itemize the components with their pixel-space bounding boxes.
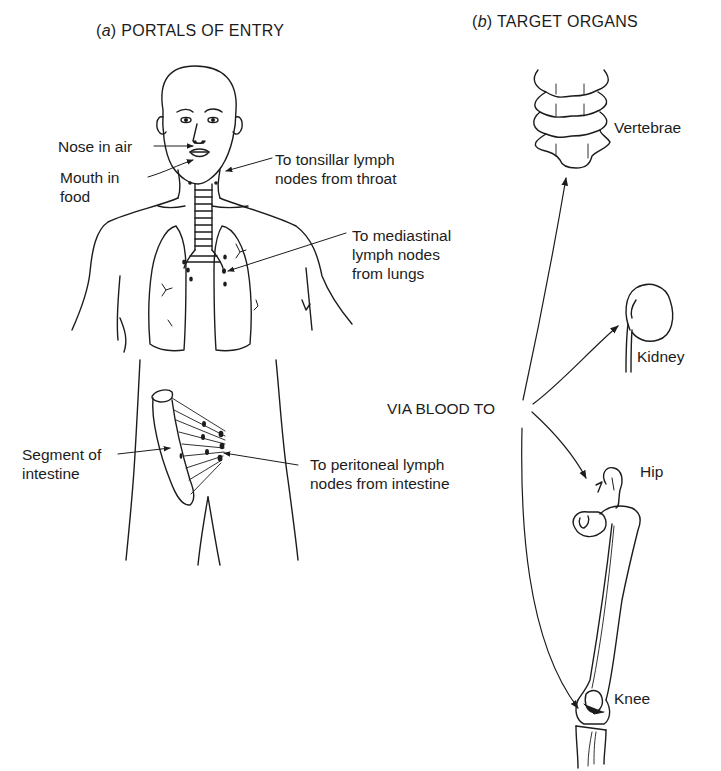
waist-right: [276, 360, 298, 560]
ear-left: [157, 117, 166, 134]
blood-route-arrows: [522, 178, 618, 708]
torso-left: [72, 198, 178, 330]
label-mouth-in-food: Mouth in food: [60, 168, 119, 206]
vertebrae-drawing: [534, 70, 610, 168]
label-segment-of-intestine: Segment of intestine: [22, 445, 101, 483]
intestine-segment: [152, 390, 225, 505]
label-knee: Knee: [614, 689, 650, 708]
head-outline: [162, 66, 236, 184]
torso-right: [220, 198, 352, 324]
waist-left: [126, 360, 140, 560]
hip-femur-drawing: [573, 468, 640, 768]
leader-lines: [118, 146, 346, 465]
anatomy-illustration: [0, 0, 721, 771]
label-kidney: Kidney: [637, 347, 684, 366]
label-mediastinal-lymph-nodes: To mediastinal lymph nodes from lungs: [352, 226, 451, 283]
arrow-to-kidney: [533, 326, 618, 404]
arrow-to-hip: [532, 412, 586, 478]
label-nose-in-air: Nose in air: [58, 137, 132, 156]
lungs: [149, 226, 258, 351]
lung-left: [149, 226, 186, 351]
trachea: [184, 184, 223, 268]
arrow-to-vertebrae: [523, 178, 566, 400]
leader-intestine: [118, 448, 170, 454]
leader-peritoneal: [224, 453, 298, 465]
lung-right: [214, 226, 251, 351]
label-vertebrae: Vertebrae: [614, 118, 681, 137]
label-via-blood-to: VIA BLOOD TO: [387, 399, 495, 418]
label-tonsillar-lymph-nodes: To tonsillar lymph nodes from throat: [275, 150, 396, 188]
leader-tonsillar: [226, 158, 272, 171]
mouth: [190, 149, 209, 157]
leader-mediastinal: [228, 233, 346, 271]
label-hip: Hip: [640, 462, 663, 481]
label-peritoneal-lymph-nodes: To peritoneal lymph nodes from intestine: [310, 455, 450, 493]
arrow-to-knee: [522, 428, 578, 708]
